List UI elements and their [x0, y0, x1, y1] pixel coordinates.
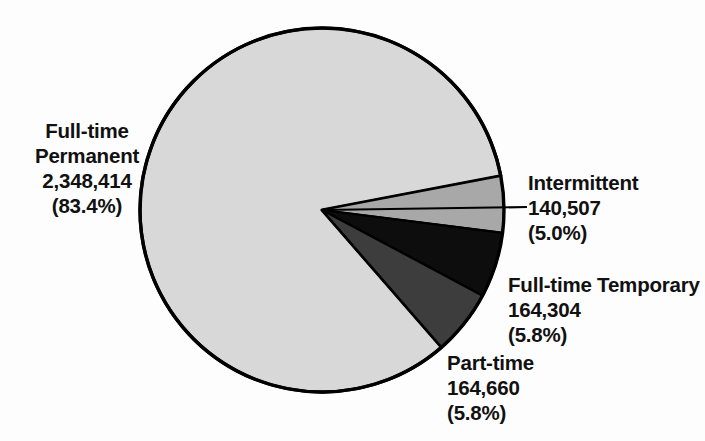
- slice-label-value: 2,348,414: [12, 168, 162, 193]
- slice-label-name: Intermittent: [528, 170, 638, 195]
- slice-label-full-time-temporary: Full-time Temporary 164,304 (5.8%): [508, 272, 700, 347]
- slice-label-value: 164,304: [508, 297, 700, 322]
- slice-label-percent: (5.8%): [447, 400, 534, 425]
- slice-label-name: Part-time: [447, 350, 534, 375]
- slice-label-intermittent: Intermittent 140,507 (5.0%): [528, 170, 638, 245]
- slice-label-name: Full-time Temporary: [508, 272, 700, 297]
- slice-label-name-line1: Full-time: [12, 118, 162, 143]
- slice-label-part-time: Part-time 164,660 (5.8%): [447, 350, 534, 425]
- slice-label-value: 164,660: [447, 375, 534, 400]
- pie-chart: Full-time Permanent 2,348,414 (83.4%) In…: [0, 0, 705, 441]
- slice-label-percent: (5.8%): [508, 322, 700, 347]
- slice-label-name-line2: Permanent: [12, 143, 162, 168]
- slice-label-percent: (83.4%): [12, 193, 162, 218]
- slice-label-full-time-permanent: Full-time Permanent 2,348,414 (83.4%): [12, 118, 162, 218]
- slice-label-value: 140,507: [528, 195, 638, 220]
- slice-label-percent: (5.0%): [528, 220, 638, 245]
